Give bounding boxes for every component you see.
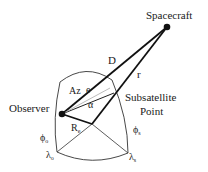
subsatellite-label-line1: Subsatellite xyxy=(125,91,176,103)
spacecraft-geometry-diagram: Spacecraft Observer Subsatellite Point D… xyxy=(0,0,208,172)
bottom-arc xyxy=(57,152,128,160)
lambda-o-label: λo xyxy=(46,149,54,161)
r-label: r xyxy=(137,68,141,80)
center-to-lambda-s-line xyxy=(92,124,128,153)
azimuth-label: Az xyxy=(69,85,81,96)
spacecraft-dot xyxy=(164,24,171,31)
earth-radius-label: Re xyxy=(71,122,81,134)
observer-label: Observer xyxy=(9,102,50,114)
subsatellite-label-line2: Point xyxy=(140,105,163,117)
elevation-label: e xyxy=(86,84,91,95)
alpha-label: α xyxy=(88,99,94,110)
spacecraft-label: Spacecraft xyxy=(146,9,192,21)
observer-dot xyxy=(59,111,66,118)
lambda-s-label: λs xyxy=(129,151,137,163)
top-arc xyxy=(60,71,112,82)
left-arc xyxy=(55,82,60,152)
phi-s-label: ϕs xyxy=(133,124,141,136)
phi-o-label: ϕo xyxy=(40,132,48,144)
D-label: D xyxy=(108,54,116,66)
